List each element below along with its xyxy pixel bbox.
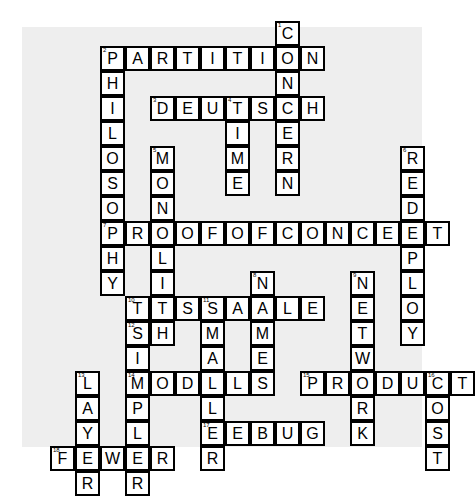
- crossword-cell[interactable]: R: [150, 446, 175, 471]
- crossword-cell[interactable]: T: [150, 296, 175, 321]
- crossword-cell[interactable]: T: [175, 46, 200, 71]
- crossword-cell[interactable]: L: [200, 396, 225, 421]
- crossword-cell[interactable]: 2P: [100, 46, 125, 71]
- crossword-cell[interactable]: I: [225, 121, 250, 146]
- crossword-cell[interactable]: K: [350, 421, 375, 446]
- crossword-cell[interactable]: E: [250, 346, 275, 371]
- crossword-cell[interactable]: E: [125, 446, 150, 471]
- crossword-cell[interactable]: Y: [400, 321, 425, 346]
- crossword-cell[interactable]: P: [400, 246, 425, 271]
- crossword-cell[interactable]: I: [200, 46, 225, 71]
- crossword-cell[interactable]: L: [150, 246, 175, 271]
- crossword-cell[interactable]: R: [150, 46, 175, 71]
- crossword-cell[interactable]: A: [75, 396, 100, 421]
- crossword-cell[interactable]: T: [225, 46, 250, 71]
- crossword-cell[interactable]: D: [400, 196, 425, 221]
- crossword-cell[interactable]: U: [275, 421, 300, 446]
- crossword-cell[interactable]: M: [200, 321, 225, 346]
- crossword-cell[interactable]: E: [350, 296, 375, 321]
- crossword-cell[interactable]: 9N: [350, 271, 375, 296]
- crossword-cell[interactable]: L: [225, 371, 250, 396]
- crossword-cell[interactable]: F: [200, 221, 225, 246]
- crossword-cell[interactable]: E: [75, 446, 100, 471]
- crossword-cell[interactable]: R: [275, 146, 300, 171]
- crossword-cell[interactable]: 16C: [425, 371, 450, 396]
- crossword-cell[interactable]: F: [250, 221, 275, 246]
- crossword-cell[interactable]: N: [325, 221, 350, 246]
- crossword-cell[interactable]: L: [125, 421, 150, 446]
- crossword-cell[interactable]: 7P: [100, 221, 125, 246]
- crossword-cell[interactable]: 8N: [250, 271, 275, 296]
- crossword-cell[interactable]: S: [250, 96, 275, 121]
- crossword-cell[interactable]: R: [75, 471, 100, 496]
- crossword-cell[interactable]: O: [300, 221, 325, 246]
- crossword-cell[interactable]: T: [425, 446, 450, 471]
- crossword-cell[interactable]: S: [250, 371, 275, 396]
- crossword-cell[interactable]: D: [175, 371, 200, 396]
- crossword-cell[interactable]: O: [150, 171, 175, 196]
- crossword-cell[interactable]: E: [300, 296, 325, 321]
- crossword-cell[interactable]: I: [100, 96, 125, 121]
- crossword-cell[interactable]: B: [250, 421, 275, 446]
- crossword-cell[interactable]: C: [350, 221, 375, 246]
- crossword-cell[interactable]: O: [350, 371, 375, 396]
- crossword-cell[interactable]: M: [250, 321, 275, 346]
- crossword-cell[interactable]: C: [275, 221, 300, 246]
- crossword-cell[interactable]: I: [125, 346, 150, 371]
- crossword-cell[interactable]: N: [300, 46, 325, 71]
- crossword-cell[interactable]: R: [200, 446, 225, 471]
- crossword-cell[interactable]: O: [400, 296, 425, 321]
- crossword-cell[interactable]: L: [400, 271, 425, 296]
- crossword-cell[interactable]: 6R: [400, 146, 425, 171]
- crossword-cell[interactable]: A: [200, 346, 225, 371]
- crossword-cell[interactable]: N: [275, 171, 300, 196]
- crossword-cell[interactable]: L: [200, 371, 225, 396]
- crossword-cell[interactable]: I: [150, 271, 175, 296]
- crossword-cell[interactable]: 14M: [125, 371, 150, 396]
- crossword-cell[interactable]: M: [225, 146, 250, 171]
- crossword-cell[interactable]: O: [100, 146, 125, 171]
- crossword-cell[interactable]: 15P: [300, 371, 325, 396]
- crossword-cell[interactable]: E: [175, 96, 200, 121]
- crossword-cell[interactable]: L: [100, 121, 125, 146]
- crossword-cell[interactable]: W: [100, 446, 125, 471]
- crossword-cell[interactable]: U: [200, 96, 225, 121]
- crossword-cell[interactable]: 18F: [50, 446, 75, 471]
- crossword-cell[interactable]: A: [225, 296, 250, 321]
- crossword-cell[interactable]: R: [325, 371, 350, 396]
- crossword-cell[interactable]: P: [125, 396, 150, 421]
- crossword-cell[interactable]: H: [150, 321, 175, 346]
- crossword-cell[interactable]: A: [250, 296, 275, 321]
- crossword-cell[interactable]: W: [350, 346, 375, 371]
- crossword-cell[interactable]: C: [275, 96, 300, 121]
- crossword-cell[interactable]: E: [400, 171, 425, 196]
- crossword-cell[interactable]: O: [275, 46, 300, 71]
- crossword-cell[interactable]: H: [300, 96, 325, 121]
- crossword-cell[interactable]: 5M: [150, 146, 175, 171]
- crossword-cell[interactable]: 12S: [125, 321, 150, 346]
- crossword-cell[interactable]: G: [300, 421, 325, 446]
- crossword-cell[interactable]: L: [275, 296, 300, 321]
- crossword-cell[interactable]: R: [125, 471, 150, 496]
- crossword-cell[interactable]: O: [100, 196, 125, 221]
- crossword-cell[interactable]: I: [250, 46, 275, 71]
- crossword-cell[interactable]: T: [425, 221, 450, 246]
- crossword-cell[interactable]: R: [350, 396, 375, 421]
- crossword-cell[interactable]: Y: [100, 271, 125, 296]
- crossword-cell[interactable]: U: [400, 371, 425, 396]
- crossword-cell[interactable]: 3D: [150, 96, 175, 121]
- crossword-cell[interactable]: 11S: [200, 296, 225, 321]
- crossword-cell[interactable]: 4T: [225, 96, 250, 121]
- crossword-cell[interactable]: N: [275, 71, 300, 96]
- crossword-cell[interactable]: S: [175, 296, 200, 321]
- crossword-cell[interactable]: E: [375, 221, 400, 246]
- crossword-cell[interactable]: A: [125, 46, 150, 71]
- crossword-cell[interactable]: T: [450, 371, 475, 396]
- crossword-cell[interactable]: H: [100, 246, 125, 271]
- crossword-cell[interactable]: E: [225, 421, 250, 446]
- crossword-cell[interactable]: 1C: [275, 21, 300, 46]
- crossword-cell[interactable]: 17E: [200, 421, 225, 446]
- crossword-cell[interactable]: O: [150, 371, 175, 396]
- crossword-cell[interactable]: O: [225, 221, 250, 246]
- crossword-cell[interactable]: D: [375, 371, 400, 396]
